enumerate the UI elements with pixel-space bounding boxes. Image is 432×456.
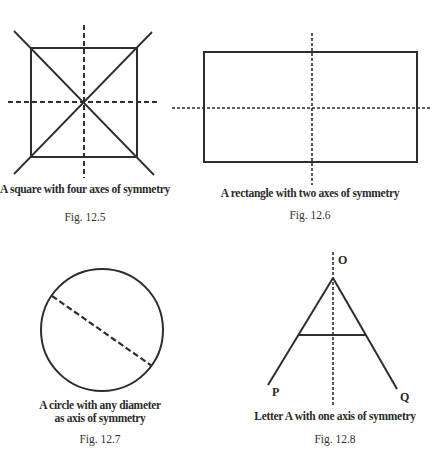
point-label-p: P (272, 385, 279, 400)
letter-a-caption: Letter A with one axis of symmetry (240, 410, 430, 423)
circle-caption-line2: as axis of symmetry (0, 412, 200, 425)
circle-caption-line1: A circle with any diameter (0, 399, 200, 412)
letter-a-fig-label: Fig. 12.8 (240, 433, 430, 445)
rectangle-outline (204, 52, 417, 162)
square-fig-label: Fig. 12.5 (0, 211, 170, 223)
circle-diameter-axis (52, 296, 152, 366)
square-caption: A square with four axes of symmetry (0, 183, 170, 196)
letter-a-figure (268, 252, 397, 405)
letter-a-right-stroke (333, 278, 397, 389)
rectangle-figure (172, 33, 432, 185)
circle-figure (41, 269, 163, 391)
point-label-q: Q (400, 390, 409, 405)
circle-outline (41, 269, 163, 391)
letter-a-left-stroke (268, 278, 333, 385)
symmetry-diagrams (0, 0, 432, 456)
rectangle-fig-label: Fig. 12.6 (210, 209, 410, 221)
point-label-o: O (338, 253, 347, 268)
rectangle-caption: A rectangle with two axes of symmetry (210, 187, 410, 200)
square-figure (8, 25, 158, 178)
circle-fig-label: Fig. 12.7 (0, 433, 200, 445)
